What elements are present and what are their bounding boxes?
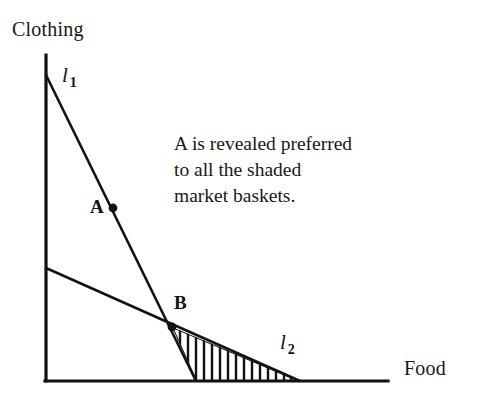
point-label-a: A: [90, 196, 104, 218]
budget-line-l1: [46, 75, 196, 381]
point-label-b: B: [174, 292, 187, 314]
x-axis-title: Food: [404, 357, 446, 380]
point-marker-b: [168, 323, 177, 332]
budget-line-l2-label: l2: [280, 330, 293, 355]
annotation-text-block: A is revealed preferred to all the shade…: [174, 131, 434, 209]
l2-label-base: l: [280, 330, 286, 354]
y-axis-title: Clothing: [12, 18, 84, 41]
point-marker-a: [109, 204, 118, 213]
annotation-line-2: to all the shaded: [174, 157, 434, 183]
budget-line-l1-label: l1: [62, 63, 75, 88]
revealed-preference-figure: Clothing Food A B l1 l2 A is revealed pr…: [0, 0, 481, 413]
annotation-line-3: market baskets.: [174, 183, 434, 209]
annotation-line-1: A is revealed preferred: [174, 131, 434, 157]
l2-label-subscript: 2: [288, 342, 295, 357]
l1-label-subscript: 1: [70, 75, 77, 90]
l1-label-base: l: [62, 63, 68, 87]
